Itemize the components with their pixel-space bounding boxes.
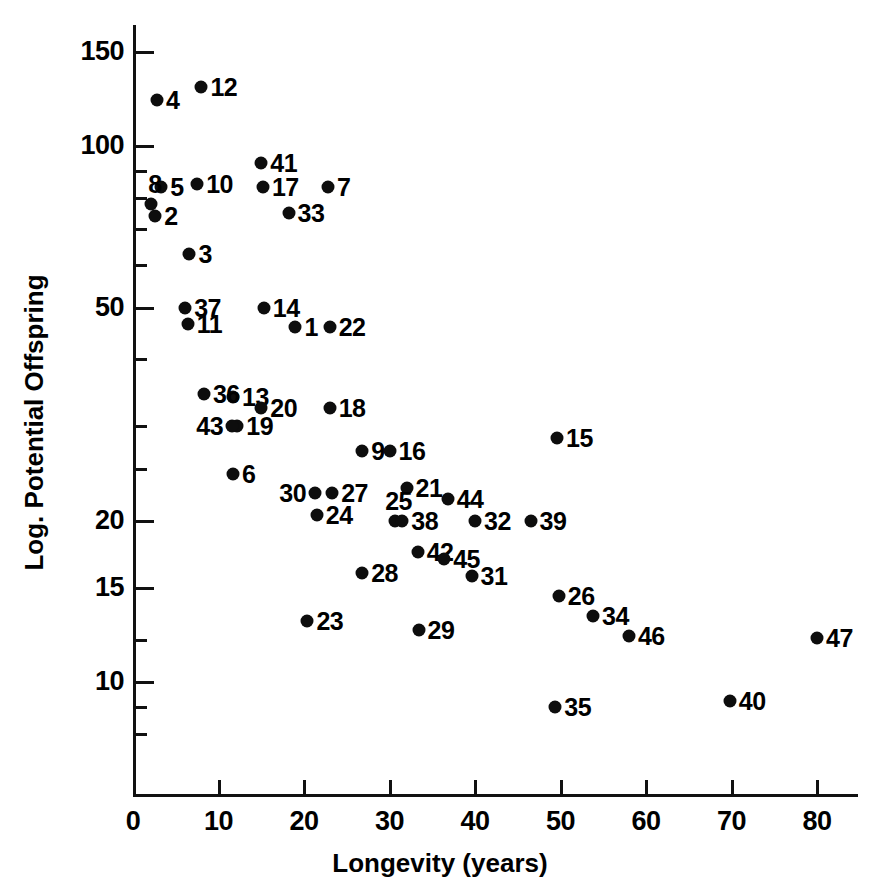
data-point[interactable] xyxy=(549,700,562,713)
data-point[interactable] xyxy=(326,487,339,500)
y-tick-minor xyxy=(136,468,147,471)
data-point-label: 17 xyxy=(272,174,299,199)
data-point[interactable] xyxy=(356,566,369,579)
data-point[interactable] xyxy=(144,198,157,211)
data-point[interactable] xyxy=(183,247,196,260)
data-point-label: 37 xyxy=(194,295,221,320)
data-point[interactable] xyxy=(289,320,302,333)
y-tick-label: 150 xyxy=(80,38,124,65)
data-point[interactable] xyxy=(586,609,599,622)
data-point[interactable] xyxy=(723,695,736,708)
data-point-label: 36 xyxy=(213,381,240,406)
y-tick-major xyxy=(136,587,154,590)
x-tick-label: 20 xyxy=(289,808,318,835)
data-point[interactable] xyxy=(412,624,425,637)
data-point-label: 14 xyxy=(273,295,300,320)
x-axis-line xyxy=(133,794,858,797)
data-point[interactable] xyxy=(301,614,314,627)
y-tick-major xyxy=(136,145,154,148)
data-point[interactable] xyxy=(257,301,270,314)
x-tick-label: 30 xyxy=(375,808,404,835)
data-point[interactable] xyxy=(181,318,194,331)
data-point[interactable] xyxy=(282,207,295,220)
x-tick-label: 50 xyxy=(546,808,575,835)
data-point[interactable] xyxy=(622,629,635,642)
x-tick-label: 0 xyxy=(126,808,141,835)
x-tick-major xyxy=(474,780,477,795)
data-point[interactable] xyxy=(309,487,322,500)
data-point[interactable] xyxy=(811,631,824,644)
y-tick-label: 20 xyxy=(95,507,124,534)
data-point[interactable] xyxy=(552,589,565,602)
data-point-label: 47 xyxy=(826,625,853,650)
x-tick-major xyxy=(560,780,563,795)
data-point[interactable] xyxy=(441,492,454,505)
data-point[interactable] xyxy=(310,509,323,522)
data-point-label: 18 xyxy=(339,395,366,420)
data-point-label: 30 xyxy=(279,481,306,506)
x-tick-label: 40 xyxy=(460,808,489,835)
y-tick-minor xyxy=(136,170,147,173)
data-point-label: 6 xyxy=(242,461,255,486)
data-point[interactable] xyxy=(323,401,336,414)
x-axis-title: Longevity (years) xyxy=(0,848,880,879)
x-tick-major xyxy=(731,780,734,795)
data-point[interactable] xyxy=(438,552,451,565)
y-tick-label: 15 xyxy=(95,574,124,601)
data-point-label: 46 xyxy=(638,623,665,648)
y-tick-label: 100 xyxy=(80,132,124,159)
data-point-label: 3 xyxy=(198,241,211,266)
y-tick-major xyxy=(136,51,154,54)
data-point[interactable] xyxy=(256,180,269,193)
scatter-plot-figure: 15010050201510 01020304050607080 1234567… xyxy=(0,0,880,892)
y-tick-minor xyxy=(136,425,147,428)
data-point-label: 41 xyxy=(270,151,297,176)
data-point-label: 23 xyxy=(316,608,343,633)
data-point[interactable] xyxy=(149,210,162,223)
y-axis-title: Log. Potential Offspring xyxy=(19,274,49,570)
data-point[interactable] xyxy=(551,432,564,445)
data-point[interactable] xyxy=(524,514,537,527)
data-point-label: 33 xyxy=(298,201,325,226)
data-point-label: 29 xyxy=(428,618,455,643)
data-point[interactable] xyxy=(195,81,208,94)
y-tick-minor xyxy=(136,706,147,709)
data-point[interactable] xyxy=(323,320,336,333)
data-point[interactable] xyxy=(197,387,210,400)
data-point-label: 20 xyxy=(270,395,297,420)
data-point[interactable] xyxy=(255,157,268,170)
data-point[interactable] xyxy=(227,467,240,480)
data-point-label: 31 xyxy=(481,563,508,588)
data-point-label: 5 xyxy=(170,174,183,199)
x-tick-major xyxy=(645,780,648,795)
data-point-label: 40 xyxy=(739,689,766,714)
data-point[interactable] xyxy=(191,178,204,191)
y-tick-major xyxy=(136,520,154,523)
data-point[interactable] xyxy=(321,180,334,193)
data-point[interactable] xyxy=(150,94,163,107)
data-point[interactable] xyxy=(255,401,268,414)
data-point-label: 25 xyxy=(385,489,412,514)
data-point[interactable] xyxy=(396,514,409,527)
y-tick-minor xyxy=(136,264,147,267)
data-point-label: 22 xyxy=(339,314,366,339)
data-point-label: 32 xyxy=(484,508,511,533)
data-point-label: 4 xyxy=(166,88,179,113)
y-tick-major xyxy=(136,307,154,310)
data-point[interactable] xyxy=(356,444,369,457)
y-tick-minor xyxy=(136,733,147,736)
data-point[interactable] xyxy=(179,301,192,314)
y-tick-minor xyxy=(136,228,147,231)
data-point[interactable] xyxy=(469,514,482,527)
data-point-label: 19 xyxy=(246,414,273,439)
data-point[interactable] xyxy=(226,420,239,433)
x-tick-label: 10 xyxy=(204,808,233,835)
data-point-label: 35 xyxy=(564,694,591,719)
y-tick-minor xyxy=(136,639,147,642)
data-point-label: 38 xyxy=(411,508,438,533)
data-point-label: 12 xyxy=(210,75,237,100)
data-point[interactable] xyxy=(411,545,424,558)
y-tick-major xyxy=(136,681,154,684)
data-point[interactable] xyxy=(383,444,396,457)
data-point-label: 44 xyxy=(457,486,484,511)
